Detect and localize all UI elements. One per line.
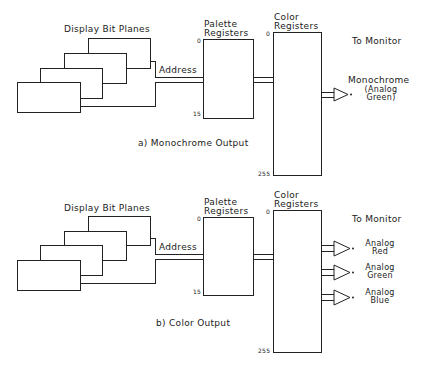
color-label-2: Registers (274, 21, 318, 31)
to-monitor-label: To Monitor (352, 36, 402, 46)
address-label: Address (159, 65, 197, 75)
output-buffer-red-icon (334, 241, 350, 256)
palette-index-top: 0 (197, 216, 201, 222)
color-index-top: 0 (266, 209, 270, 215)
output-buffer-green-icon (334, 265, 350, 280)
color-label-2: Registers (274, 199, 318, 209)
palette-label-2: Registers (204, 206, 248, 216)
analog-red-label: Analog Red (358, 240, 402, 256)
palette-index-bottom: 15 (193, 111, 201, 117)
analog-green-label: (Analog Green) (356, 86, 406, 102)
address-label: Address (159, 242, 197, 252)
color-index-bottom: 255 (258, 348, 270, 354)
color-registers-box (273, 210, 321, 352)
caption-a: a) Monochrome Output (138, 138, 248, 148)
color-index-bottom: 255 (258, 171, 270, 177)
palette-index-top: 0 (197, 38, 201, 44)
diagram-canvas (0, 0, 425, 368)
panel-a-graphics (17, 32, 352, 175)
color-registers-box (273, 32, 321, 175)
output-buffer-blue-icon (334, 290, 350, 305)
color-index-top: 0 (266, 31, 270, 37)
caption-b: b) Color Output (156, 318, 230, 328)
bit-planes-label: Display Bit Planes (64, 24, 150, 34)
analog-green-label: Analog Green (358, 264, 402, 280)
to-monitor-label: To Monitor (352, 214, 402, 224)
output-buffer-icon (334, 88, 348, 101)
panel-b-graphics (17, 210, 354, 352)
palette-index-bottom: 15 (193, 289, 201, 295)
bit-plane-1 (17, 260, 80, 290)
bit-planes-label: Display Bit Planes (64, 203, 150, 213)
analog-blue-label: Analog Blue (358, 289, 402, 305)
palette-registers-box (203, 39, 253, 118)
monochrome-label: Monochrome (348, 75, 409, 85)
palette-label-2: Registers (204, 28, 248, 38)
palette-registers-box (203, 217, 253, 295)
bit-plane-1 (17, 82, 80, 112)
